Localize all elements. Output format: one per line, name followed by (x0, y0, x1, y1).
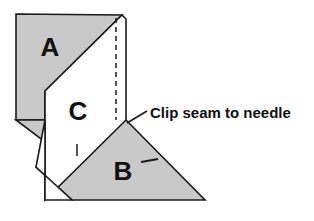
clip-seam-callout-text: Clip seam to needle (150, 104, 291, 121)
clip-seam-leader-line (127, 111, 147, 123)
piece-label-a: A (41, 32, 60, 62)
diagram-canvas: A C B Clip seam to needle (0, 0, 314, 221)
piece-label-b: B (114, 156, 133, 186)
sewing-fold-diagram: A C B Clip seam to needle (0, 0, 314, 221)
piece-label-c: C (69, 96, 88, 126)
